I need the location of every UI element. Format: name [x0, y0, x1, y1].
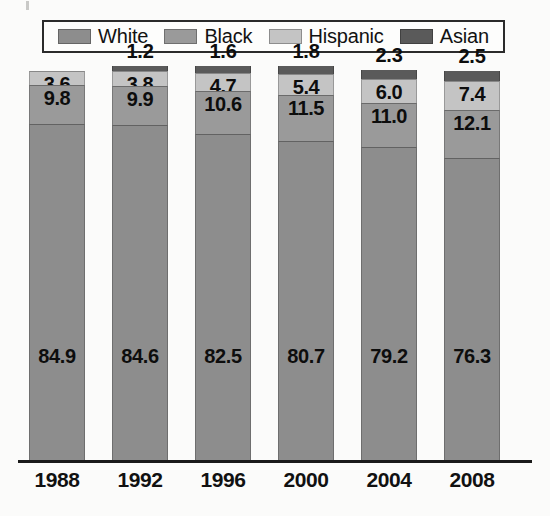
bar-segment-black: 10.6 — [195, 91, 251, 133]
legend-swatch-asian — [400, 29, 433, 44]
bar-segment-black: 11.5 — [278, 95, 334, 141]
bar-top-label-asian: 2.5 — [444, 45, 500, 68]
segment-value-black: 10.6 — [196, 94, 250, 114]
plot-area: 3.69.884.91.23.89.984.61.64.710.682.51.8… — [0, 62, 550, 462]
bar-segment-white: 80.7 — [278, 141, 334, 462]
x-axis-tick-labels: 198819921996200020042008 — [0, 468, 550, 498]
bar-segment-hispanic: 3.6 — [29, 71, 85, 85]
legend-swatch-black — [164, 29, 197, 44]
segment-value-hispanic: 5.4 — [279, 77, 333, 97]
stacked-bar[interactable]: 4.710.682.5 — [195, 66, 251, 462]
segment-value-hispanic: 7.4 — [445, 84, 499, 104]
x-tick-2008: 2008 — [432, 468, 512, 492]
bar-segment-white: 84.6 — [112, 125, 168, 462]
bar-segment-black: 9.9 — [112, 86, 168, 125]
bar-segment-white: 82.5 — [195, 134, 251, 462]
stacked-bar[interactable]: 6.011.079.2 — [361, 70, 417, 462]
segment-value-white: 82.5 — [196, 346, 250, 366]
bar-segment-hispanic: 3.8 — [112, 71, 168, 86]
x-tick-1992: 1992 — [100, 468, 180, 492]
segment-value-white: 84.6 — [113, 346, 167, 366]
stacked-bar[interactable]: 3.69.884.9 — [29, 71, 85, 462]
bar-segment-black: 11.0 — [361, 103, 417, 147]
bar-segment-white: 76.3 — [444, 158, 500, 462]
segment-value-white: 79.2 — [362, 346, 416, 366]
segment-value-black: 9.9 — [113, 89, 167, 109]
bar-segment-asian — [444, 71, 500, 81]
segment-value-black: 12.1 — [445, 113, 499, 133]
bar-segment-black: 12.1 — [444, 110, 500, 158]
bar-segment-white: 84.9 — [29, 124, 85, 462]
segment-value-black: 9.8 — [30, 88, 84, 108]
bar-segment-black: 9.8 — [29, 85, 85, 124]
bar-top-label-asian: 1.2 — [112, 40, 168, 63]
x-tick-2000: 2000 — [266, 468, 346, 492]
legend-swatch-white — [58, 29, 91, 44]
x-tick-1988: 1988 — [17, 468, 97, 492]
bar-top-label-asian: 2.3 — [361, 44, 417, 67]
segment-value-black: 11.0 — [362, 106, 416, 126]
x-tick-2004: 2004 — [349, 468, 429, 492]
segment-value-white: 80.7 — [279, 346, 333, 366]
bar-segment-white: 79.2 — [361, 147, 417, 462]
segment-value-white: 76.3 — [445, 346, 499, 366]
segment-value-black: 11.5 — [279, 98, 333, 118]
scan-artifact — [26, 1, 29, 10]
bar-segment-hispanic: 7.4 — [444, 81, 500, 110]
x-axis-line — [18, 460, 532, 463]
bar-segment-hispanic: 5.4 — [278, 74, 334, 95]
bar-segment-hispanic: 6.0 — [361, 79, 417, 103]
bar-segment-hispanic: 4.7 — [195, 73, 251, 92]
segment-value-hispanic: 6.0 — [362, 82, 416, 102]
bar-top-label-asian: 1.6 — [195, 40, 251, 63]
stacked-bar[interactable]: 3.89.984.6 — [112, 66, 168, 462]
x-tick-1996: 1996 — [183, 468, 263, 492]
bar-segment-asian — [278, 66, 334, 73]
bar-segment-asian — [361, 70, 417, 79]
stacked-bar[interactable]: 5.411.580.7 — [278, 66, 334, 462]
bar-top-label-asian: 1.8 — [278, 40, 334, 63]
segment-value-white: 84.9 — [30, 346, 84, 366]
stacked-bar[interactable]: 7.412.176.3 — [444, 71, 500, 462]
chart-page: White Black Hispanic Asian 3.69.884.91.2… — [0, 0, 550, 516]
